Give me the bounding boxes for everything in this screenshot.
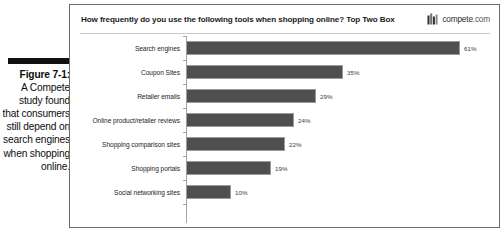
bar-row: Retailer emails29% bbox=[70, 84, 499, 108]
bar-category-label: Retailer emails bbox=[70, 93, 186, 100]
figure-number: Figure 7-1: bbox=[2, 68, 70, 81]
bar-value-label: 61% bbox=[464, 45, 476, 52]
bar bbox=[186, 89, 316, 103]
caption-rule bbox=[8, 58, 70, 64]
axis-tick bbox=[183, 60, 186, 61]
chart-header: How frequently do you use the following … bbox=[70, 5, 499, 33]
figure-caption-column: Figure 7-1: A Compete study found that c… bbox=[0, 0, 74, 232]
bar-row: Online product/retailer reviews24% bbox=[70, 108, 499, 132]
bar bbox=[186, 185, 231, 199]
bar-row: Shopping portals19% bbox=[70, 156, 499, 180]
bar-row: Search engines61% bbox=[70, 36, 499, 60]
figure-caption-text: A Compete study found that consumers sti… bbox=[2, 81, 70, 173]
bar-value-label: 29% bbox=[320, 93, 332, 100]
bar-track: 29% bbox=[186, 84, 499, 108]
axis-tick bbox=[183, 36, 186, 37]
header-divider bbox=[80, 33, 490, 34]
bar-track: 22% bbox=[186, 132, 499, 156]
axis-tick bbox=[183, 204, 186, 205]
bar-value-label: 19% bbox=[275, 165, 287, 172]
bar-category-label: Search engines bbox=[70, 45, 186, 52]
brand-tld: .com bbox=[473, 14, 490, 24]
bar-row: Social networking sites10% bbox=[70, 180, 499, 204]
bar-category-label: Shopping comparison sites bbox=[70, 141, 186, 148]
axis-tick bbox=[183, 132, 186, 133]
bar-row: Coupon Sites35% bbox=[70, 60, 499, 84]
brand-word: compete bbox=[442, 14, 472, 24]
figure-page: Figure 7-1: A Compete study found that c… bbox=[0, 0, 504, 232]
bar-chart-logo-icon bbox=[427, 13, 439, 25]
bar-track: 19% bbox=[186, 156, 499, 180]
bar-category-label: Shopping portals bbox=[70, 165, 186, 172]
brand-name-text: compete.com bbox=[442, 14, 490, 24]
bar-track: 35% bbox=[186, 60, 499, 84]
bar-track: 10% bbox=[186, 180, 499, 204]
chart-panel: How frequently do you use the following … bbox=[69, 4, 500, 228]
bar-rows: Search engines61%Coupon Sites35%Retailer… bbox=[70, 36, 499, 204]
bar bbox=[186, 65, 343, 79]
bar bbox=[186, 137, 285, 151]
compete-logo: compete.com bbox=[427, 13, 490, 25]
bar-value-label: 10% bbox=[235, 189, 247, 196]
axis-tick bbox=[183, 84, 186, 85]
bar-category-label: Online product/retailer reviews bbox=[70, 117, 186, 124]
figure-caption: Figure 7-1: A Compete study found that c… bbox=[2, 68, 70, 173]
bar-track: 61% bbox=[186, 36, 499, 60]
axis-tick bbox=[183, 180, 186, 181]
bar-value-label: 22% bbox=[289, 141, 301, 148]
bar bbox=[186, 113, 294, 127]
bar bbox=[186, 41, 460, 55]
bar-chart-plot: Search engines61%Coupon Sites35%Retailer… bbox=[70, 36, 499, 223]
bar-value-label: 35% bbox=[347, 69, 359, 76]
axis-tick bbox=[183, 156, 186, 157]
bar bbox=[186, 161, 271, 175]
bar-track: 24% bbox=[186, 108, 499, 132]
bar-category-label: Coupon Sites bbox=[70, 69, 186, 76]
bar-value-label: 24% bbox=[298, 117, 310, 124]
chart-question-title: How frequently do you use the following … bbox=[81, 15, 395, 24]
bar-row: Shopping comparison sites22% bbox=[70, 132, 499, 156]
axis-tick bbox=[183, 108, 186, 109]
bar-category-label: Social networking sites bbox=[70, 189, 186, 196]
